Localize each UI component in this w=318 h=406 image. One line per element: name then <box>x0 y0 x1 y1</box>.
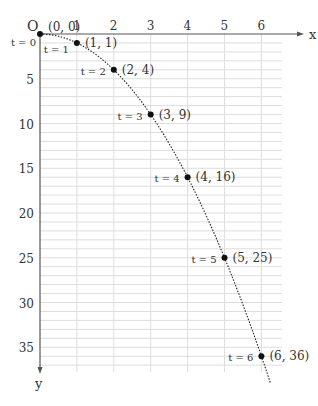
x-tick-label: 4 <box>184 19 192 33</box>
t-label: t = 1 <box>44 44 69 55</box>
x-axis-label: x <box>309 27 317 42</box>
chart: xyO1234565101520253035(0, 0)t = 0(1, 1)t… <box>0 0 318 406</box>
point-label: (5, 25) <box>233 251 273 265</box>
y-tick-label: 20 <box>19 207 34 221</box>
origin-label: O <box>27 18 38 34</box>
t-label: t = 0 <box>11 37 36 48</box>
data-point <box>37 31 43 37</box>
data-point <box>111 67 117 73</box>
point-label: (1, 1) <box>85 36 117 50</box>
data-point <box>74 40 80 46</box>
t-label: t = 4 <box>154 173 179 184</box>
x-tick-label: 2 <box>110 19 118 33</box>
x-tick-label: 3 <box>147 19 155 33</box>
y-axis-label: y <box>34 376 43 391</box>
data-point <box>258 353 264 359</box>
t-label: t = 5 <box>191 254 216 265</box>
y-tick-label: 25 <box>19 252 34 266</box>
point-label: (2, 4) <box>122 63 154 77</box>
x-tick-label: 5 <box>221 19 229 33</box>
t-label: t = 2 <box>81 66 106 77</box>
point-label: (0, 0) <box>48 20 80 34</box>
point-label: (4, 16) <box>196 170 236 184</box>
data-point <box>148 112 154 118</box>
y-tick-label: 10 <box>19 118 34 132</box>
data-point <box>185 174 191 180</box>
t-label: t = 6 <box>228 352 253 363</box>
parabola-curve <box>40 34 271 384</box>
data-point <box>222 255 228 261</box>
parabola-plot: xyO1234565101520253035(0, 0)t = 0(1, 1)t… <box>0 0 318 406</box>
x-axis-arrow-icon <box>297 32 304 37</box>
y-tick-label: 30 <box>19 297 34 311</box>
y-tick-label: 35 <box>19 341 34 355</box>
point-label: (6, 36) <box>269 349 309 363</box>
y-tick-label: 15 <box>19 162 34 176</box>
y-axis-arrow-icon <box>38 367 43 374</box>
point-label: (3, 9) <box>159 108 191 122</box>
t-label: t = 3 <box>118 111 143 122</box>
x-tick-label: 6 <box>257 19 265 33</box>
y-tick-label: 5 <box>26 73 34 87</box>
